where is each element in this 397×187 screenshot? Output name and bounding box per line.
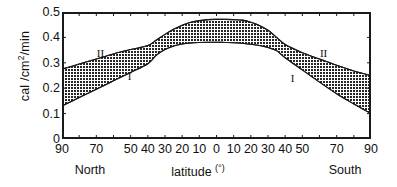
- x-axis-tick-6: 10: [192, 142, 206, 156]
- x-axis-tick-9: 20: [244, 142, 258, 156]
- x-axis-tick-11: 40: [278, 142, 292, 156]
- hemisphere-label-south: South: [329, 163, 362, 177]
- annotation-upper-curve-label-right: II: [320, 47, 327, 59]
- annotation-upper-curve-label-left: II: [97, 47, 104, 59]
- x-axis-tick-7: 0: [213, 142, 220, 156]
- annotation-lower-curve-label-right: I: [291, 72, 295, 84]
- plot-frame: [62, 12, 371, 139]
- y-axis-tick-labels: 00.10.20.30.40.5: [22, 0, 60, 187]
- y-axis-tick-5: 0.5: [26, 5, 60, 19]
- y-axis-tick-3: 0.3: [26, 56, 60, 70]
- chart-figure: cal /cm2/min 00.10.20.30.40.5 IIIIII 907…: [0, 0, 397, 187]
- x-axis-tick-0: 90: [55, 142, 69, 156]
- x-axis-tick-5: 20: [175, 142, 189, 156]
- x-axis-tick-1: 70: [89, 142, 103, 156]
- x-axis-tick-10: 30: [261, 142, 275, 156]
- x-axis-tick-4: 30: [158, 142, 172, 156]
- x-axis-tick-labels: 90705040302010010203040507090: [62, 142, 371, 160]
- x-axis-tick-13: 70: [330, 142, 344, 156]
- x-axis-title: latitude (°): [171, 163, 224, 179]
- x-axis-tick-2: 50: [124, 142, 138, 156]
- x-axis-tick-8: 10: [227, 142, 241, 156]
- plot-area: IIIIII: [62, 12, 371, 139]
- x-axis-tick-12: 50: [295, 142, 309, 156]
- hemisphere-label-north: North: [75, 163, 106, 177]
- x-axis-tick-14: 90: [364, 142, 378, 156]
- annotation-lower-curve-label-left: I: [128, 70, 132, 82]
- x-axis-title-text: latitude: [171, 165, 211, 179]
- y-axis-tick-2: 0.2: [26, 81, 60, 95]
- y-axis-tick-4: 0.4: [26, 30, 60, 44]
- x-axis-tick-3: 40: [141, 142, 155, 156]
- y-axis-tick-1: 0.1: [26, 107, 60, 121]
- x-axis-title-unit: (°): [215, 163, 225, 173]
